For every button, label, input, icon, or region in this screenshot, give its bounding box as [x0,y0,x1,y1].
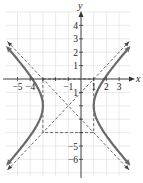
y-tick-label: 2 [73,48,78,58]
axes [3,11,135,178]
x-tick-label: 1 [91,82,96,92]
y-tick-label: −6 [68,155,78,165]
y-tick-label: 1 [73,88,78,98]
x-tick-label: −5 [12,82,22,92]
x-axis-arrow-icon [129,77,135,82]
x-tick-label: −4 [25,82,35,92]
y-tick-label: 1 [73,61,78,71]
x-axis-label: x [135,73,141,84]
x-tick-label: 3 [117,82,122,92]
x-tick-label: −1 [63,82,73,92]
y-tick-label: 3 [73,34,78,44]
y-tick-label: −5 [68,142,78,152]
y-tick-label: 4 [73,21,78,31]
y-axis-label: y [77,0,83,11]
hyperbola-chart: −5−4−112343211−5−6 x y [0,0,143,183]
tick-labels: −5−4−112343211−5−6 [12,21,121,165]
x-tick-label: 2 [104,82,109,92]
